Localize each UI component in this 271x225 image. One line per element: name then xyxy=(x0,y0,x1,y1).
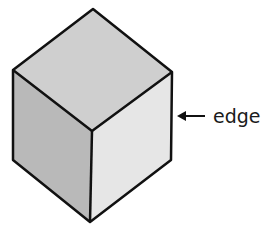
edge-label: edge xyxy=(213,105,261,127)
cube-diagram: edge xyxy=(0,0,271,225)
arrow-icon xyxy=(177,111,205,121)
